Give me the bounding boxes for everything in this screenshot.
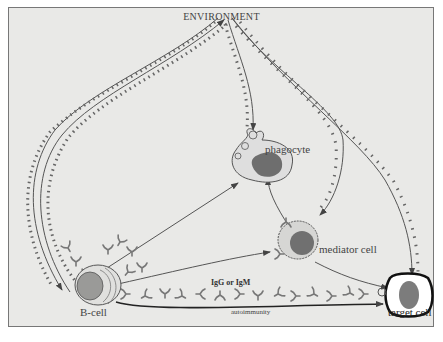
b-cell-label: B-cell xyxy=(80,306,107,318)
autoimmunity-label: autoimmunity xyxy=(231,308,270,316)
mediator-cell-label: mediator cell xyxy=(319,243,377,255)
antibody-label: IgG or IgM xyxy=(211,278,250,287)
phagocyte-label: phagocyte xyxy=(265,143,310,155)
environment-label: ENVIRONMENT xyxy=(0,11,443,22)
phagocyte xyxy=(232,129,292,183)
immune-diagram xyxy=(0,0,443,342)
arrow-autoimmunity xyxy=(116,302,383,308)
antigen-path-left xyxy=(28,18,227,292)
b-cell xyxy=(75,265,121,305)
arrow-mediator-target xyxy=(315,262,388,288)
mediator-cell xyxy=(275,218,318,259)
arrow-bcell-phagocyte xyxy=(107,183,238,268)
target-cell-label: target cell xyxy=(388,306,431,318)
